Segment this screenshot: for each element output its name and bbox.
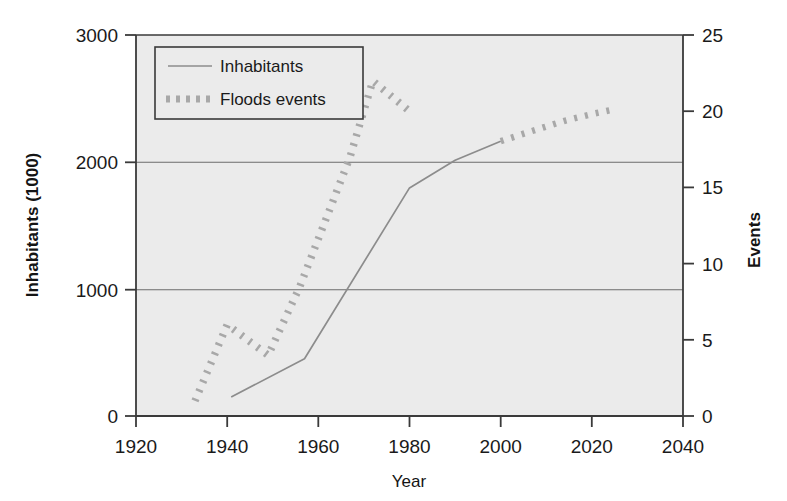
xtick-label-2040: 2040	[662, 436, 704, 457]
x-axis-title: Year	[392, 472, 427, 491]
left-axis-ticks	[125, 35, 136, 416]
right-axis-ticks	[683, 35, 694, 416]
y-axis-title: Inhabitants (1000)	[23, 153, 42, 298]
chart-figure: 3000 2000 1000 0 25 20 15 10 5 0 1920 19…	[0, 0, 787, 501]
y2tick-label-20: 20	[702, 101, 723, 122]
y2tick-label-25: 25	[702, 25, 723, 46]
xtick-label-1940: 1940	[206, 436, 248, 457]
xtick-label-2020: 2020	[571, 436, 613, 457]
y2-axis-title: Events	[745, 212, 764, 268]
ytick-label-3000: 3000	[76, 25, 118, 46]
y2tick-label-5: 5	[702, 330, 713, 351]
xtick-label-1920: 1920	[115, 436, 157, 457]
ytick-label-1000: 1000	[76, 280, 118, 301]
xtick-label-2000: 2000	[480, 436, 522, 457]
legend-label-inhabitants: Inhabitants	[220, 57, 303, 76]
bottom-axis-ticks	[136, 416, 683, 427]
y2tick-label-15: 15	[702, 177, 723, 198]
ytick-label-2000: 2000	[76, 152, 118, 173]
xtick-label-1960: 1960	[297, 436, 339, 457]
flood-events-population-line-chart: 3000 2000 1000 0 25 20 15 10 5 0 1920 19…	[0, 0, 787, 501]
ytick-label-0: 0	[107, 406, 118, 427]
legend-label-floods-events: Floods events	[220, 90, 326, 109]
chart-legend[interactable]: Inhabitants Floods events	[155, 47, 363, 119]
xtick-label-1980: 1980	[388, 436, 430, 457]
y2tick-label-0: 0	[702, 406, 713, 427]
y2tick-label-10: 10	[702, 254, 723, 275]
